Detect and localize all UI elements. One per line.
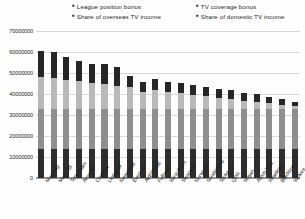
bar-column[interactable]: [114, 31, 120, 178]
bar-segment: [114, 67, 120, 86]
bar-segment: [254, 109, 260, 149]
bar-segment: [101, 109, 107, 149]
bar-segment: [89, 109, 95, 149]
legend-item-share-of-overseas-tv-income: ▪ Share of overseas TV income: [72, 12, 161, 22]
bar-segment: [216, 89, 222, 97]
legend-item-share-of-domestic-tv-income: ▪ Share of domestic TV income: [196, 12, 285, 22]
bar-segment: [38, 149, 44, 178]
bar-segment: [228, 99, 234, 109]
bar-column[interactable]: [292, 31, 298, 178]
bar-segment: [203, 87, 209, 96]
bar-segment: [76, 81, 82, 109]
bar-column[interactable]: [89, 31, 95, 178]
bar-segment: [165, 109, 171, 149]
bar-segment: [165, 82, 171, 92]
bar-segment: [266, 109, 272, 149]
bar-segment: [203, 96, 209, 109]
bar-segment: [152, 79, 158, 91]
bar-column[interactable]: [38, 31, 44, 178]
bar-segment: [178, 83, 184, 93]
legend-item-league-position-bonus: ▪ League position bonus: [72, 2, 161, 12]
bar-column[interactable]: [216, 31, 222, 178]
bar-segment: [266, 97, 272, 104]
bar-segment: [51, 109, 57, 149]
bar-series-group: [36, 31, 300, 178]
plot-area: 0100000002000000030000000400000005000000…: [36, 31, 300, 178]
legend-item-tv-coverage-bonus: ▪ TV coverage bonus: [196, 2, 285, 12]
bar-segment: [38, 51, 44, 77]
bar-segment: [216, 109, 222, 149]
bar-segment: [140, 109, 146, 149]
y-axis-tick-label: 20000000: [9, 133, 33, 139]
bar-column[interactable]: [241, 31, 247, 178]
bar-segment: [38, 77, 44, 109]
legend-marker-icon: ▪: [72, 11, 75, 20]
bar-segment: [228, 90, 234, 99]
y-axis-tick-label: 70000000: [9, 28, 33, 34]
bar-segment: [38, 109, 44, 149]
bar-segment: [228, 109, 234, 149]
bar-segment: [203, 109, 209, 149]
bar-segment: [63, 80, 69, 109]
bar-column[interactable]: [254, 31, 260, 178]
bar-column[interactable]: [76, 31, 82, 178]
legend-label: Share of domestic TV income: [201, 12, 285, 21]
legend-marker-icon: ▪: [196, 1, 199, 10]
chart-legend: ▪ League position bonus ▪ Share of overs…: [0, 2, 305, 24]
bar-segment: [190, 109, 196, 149]
bar-column[interactable]: [203, 31, 209, 178]
bar-segment: [101, 84, 107, 109]
bar-column[interactable]: [101, 31, 107, 178]
bar-segment: [152, 90, 158, 109]
bar-segment: [140, 82, 146, 92]
bar-segment: [292, 109, 298, 149]
bar-segment: [178, 93, 184, 109]
bar-column[interactable]: [178, 31, 184, 178]
bar-segment: [254, 94, 260, 102]
bar-segment: [127, 76, 133, 88]
y-axis-tick-label: 40000000: [9, 91, 33, 97]
bar-column[interactable]: [152, 31, 158, 178]
bar-segment: [165, 92, 171, 110]
bar-segment: [114, 109, 120, 149]
y-axis-tick-label: 10000000: [9, 154, 33, 160]
bar-segment: [241, 109, 247, 149]
y-axis-tick-label: 50000000: [9, 70, 33, 76]
legend-marker-icon: ▪: [72, 1, 75, 10]
bar-column[interactable]: [140, 31, 146, 178]
bar-segment: [51, 52, 57, 78]
bar-segment: [127, 87, 133, 109]
bar-segment: [178, 109, 184, 149]
bar-segment: [254, 102, 260, 109]
bar-segment: [51, 78, 57, 109]
bar-column[interactable]: [51, 31, 57, 178]
bar-segment: [76, 109, 82, 149]
y-axis-tick-label: 0: [30, 175, 33, 181]
bar-segment: [101, 64, 107, 84]
bar-segment: [216, 98, 222, 110]
bar-segment: [89, 64, 95, 83]
bar-column[interactable]: [190, 31, 196, 178]
bar-column[interactable]: [266, 31, 272, 178]
bar-segment: [279, 109, 285, 149]
bar-segment: [63, 57, 69, 80]
bar-segment: [63, 109, 69, 149]
bar-segment: [190, 85, 196, 94]
y-axis-tick-label: 60000000: [9, 49, 33, 55]
bar-column[interactable]: [63, 31, 69, 178]
legend-column-left: ▪ League position bonus ▪ Share of overs…: [72, 2, 161, 22]
legend-marker-icon: ▪: [196, 11, 199, 20]
bar-column[interactable]: [279, 31, 285, 178]
bar-segment: [114, 86, 120, 110]
x-axis-labels: Man CityMan UtdTottenhamArsenalChelseaLi…: [36, 180, 300, 219]
bar-segment: [127, 109, 133, 149]
bar-segment: [140, 92, 146, 109]
legend-label: TV coverage bonus: [201, 2, 256, 11]
bar-column[interactable]: [228, 31, 234, 178]
bar-column[interactable]: [165, 31, 171, 178]
legend-column-right: ▪ TV coverage bonus ▪ Share of domestic …: [196, 2, 285, 22]
bar-column[interactable]: [127, 31, 133, 178]
bar-segment: [241, 101, 247, 110]
bar-segment: [89, 83, 95, 109]
legend-label: League position bonus: [77, 2, 141, 11]
